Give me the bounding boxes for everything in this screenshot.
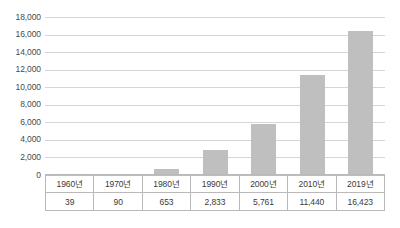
y-tick-label: 16,000 [0,30,41,39]
bar-1990 [203,150,228,175]
table-cell-category: 1960년 [46,175,94,193]
bar-chart-with-data-table: 18,000 16,000 14,000 12,000 10,000 8,000… [0,0,400,228]
table-cell-category: 1970년 [94,175,142,193]
table-row-categories: 1960년 1970년 1980년 1990년 2000년 2010년 2019… [46,175,385,193]
y-tick-label: 2,000 [0,153,41,162]
bars-layer [45,17,385,175]
y-tick-label: 12,000 [0,65,41,74]
table-cell-category: 1980년 [142,175,190,193]
plot-area [45,17,385,175]
table-cell-value: 653 [142,193,190,211]
y-tick-label: 6,000 [0,118,41,127]
table-cell-category: 1990년 [191,175,239,193]
y-tick-label: 8,000 [0,100,41,109]
table-row-values: 39 90 653 2,833 5,761 11,440 16,423 [46,193,385,211]
data-table: 1960년 1970년 1980년 1990년 2000년 2010년 2019… [45,174,385,211]
table-cell-category: 2010년 [288,175,336,193]
bar-2010 [300,75,325,175]
table-cell-category: 2019년 [336,175,384,193]
table-cell-value: 39 [46,193,94,211]
table-cell-value: 16,423 [336,193,384,211]
table-cell-value: 5,761 [239,193,287,211]
y-tick-label: 10,000 [0,83,41,92]
bar-2019 [348,31,373,175]
bar-2000 [251,124,276,175]
table-cell-value: 11,440 [288,193,336,211]
y-tick-label: 0 [0,171,41,180]
y-tick-label: 14,000 [0,48,41,57]
table-cell-category: 2000년 [239,175,287,193]
table-cell-value: 90 [94,193,142,211]
table-cell-value: 2,833 [191,193,239,211]
y-tick-label: 4,000 [0,135,41,144]
y-axis: 18,000 16,000 14,000 12,000 10,000 8,000… [0,0,41,228]
y-tick-label: 18,000 [0,13,41,22]
